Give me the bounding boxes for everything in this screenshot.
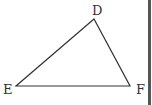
- triangle-diagram: D E F: [0, 0, 152, 105]
- right-edge-divider: [148, 0, 151, 105]
- vertex-label-e: E: [3, 82, 13, 97]
- vertex-label-f: F: [136, 82, 145, 97]
- triangle-def: [16, 19, 130, 86]
- vertex-label-d: D: [92, 3, 102, 18]
